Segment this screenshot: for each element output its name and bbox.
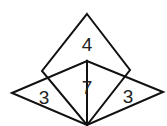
label-center: 7 [82,77,93,98]
label-right: 3 [123,86,134,107]
label-left: 3 [39,87,50,108]
left-wing [12,61,87,125]
label-top: 4 [82,34,93,55]
quadrilateral-number-diagram: 4 7 3 3 [0,0,167,126]
